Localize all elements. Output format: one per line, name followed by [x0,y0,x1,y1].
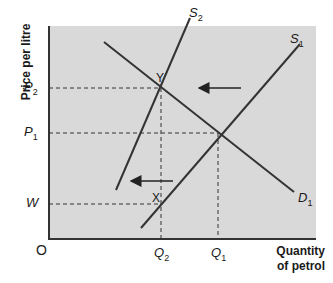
supply-demand-diagram: Price per litre P2 P1 W O Q2 Q1 Quantity… [0,0,333,283]
curve-label-s1: S1 [290,31,304,49]
tick-p1: P1 [24,124,38,142]
curve-label-s2: S2 [189,5,203,23]
tick-w: W [26,195,38,210]
origin-label: O [36,242,47,258]
tick-q1: Q1 [211,245,226,263]
point-label-y: Y [156,71,164,85]
diagram-canvas [0,0,333,283]
x-axis-label: Quantity of petrol [276,244,325,274]
curve-label-d1: D1 [298,190,312,208]
tick-p2: P2 [24,79,38,97]
tick-q2: Q2 [154,245,169,263]
point-label-x: X [152,191,160,205]
